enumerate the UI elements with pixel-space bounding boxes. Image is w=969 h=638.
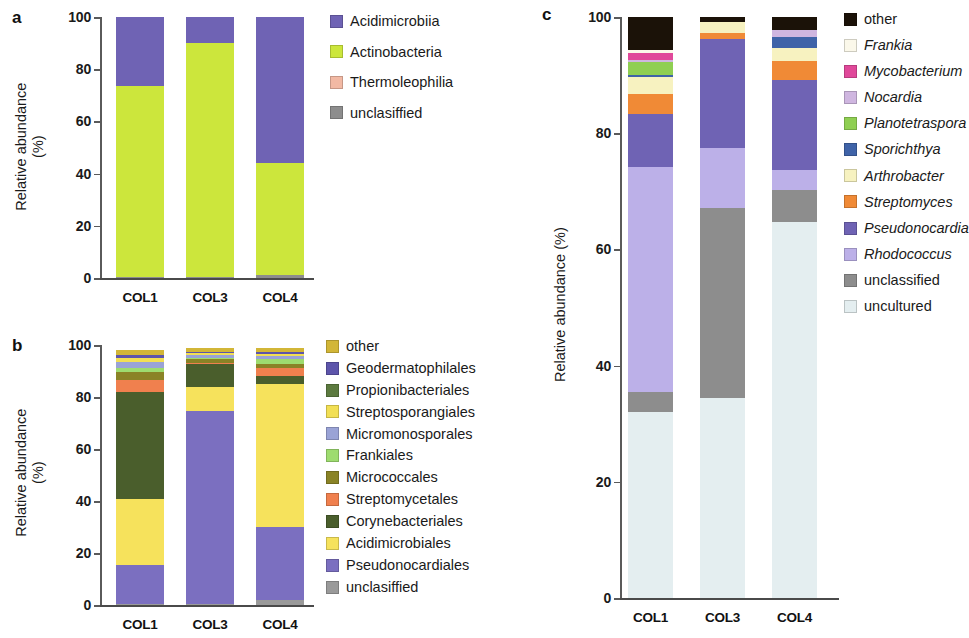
- legend-swatch-icon: [326, 537, 339, 550]
- stacked-bar[interactable]: [628, 17, 673, 598]
- bar-segment[interactable]: [700, 22, 745, 33]
- stacked-bar[interactable]: [116, 17, 164, 278]
- legend-label: Sporichthya: [864, 142, 941, 157]
- stacked-bar[interactable]: [186, 345, 234, 605]
- legend-item[interactable]: Frankiales: [326, 448, 476, 463]
- bar-segment[interactable]: [256, 600, 304, 605]
- bar-segment[interactable]: [772, 80, 817, 170]
- stacked-bar[interactable]: [256, 17, 304, 278]
- stacked-bar[interactable]: [256, 345, 304, 605]
- bar-segment[interactable]: [256, 368, 304, 376]
- bar-segment[interactable]: [256, 384, 304, 526]
- y-axis-line: [620, 17, 622, 598]
- bar-segment[interactable]: [628, 77, 673, 94]
- bar-segment[interactable]: [256, 275, 304, 278]
- legend-item[interactable]: Rhodococcus: [844, 247, 969, 262]
- bar-segment[interactable]: [116, 380, 164, 393]
- legend-item[interactable]: Streptomycetales: [326, 492, 476, 507]
- stacked-bar[interactable]: [700, 17, 745, 598]
- bar-segment[interactable]: [700, 208, 745, 398]
- legend-label: Actinobacteria: [350, 45, 442, 60]
- legend-item[interactable]: Planotetraspora: [844, 116, 969, 131]
- bar-segment[interactable]: [116, 372, 164, 380]
- x-axis-category-label: COL1: [633, 610, 668, 625]
- bar-segment[interactable]: [700, 39, 745, 149]
- legend-item[interactable]: Actinobacteria: [330, 45, 453, 60]
- legend-item[interactable]: Propionibacteriales: [326, 383, 476, 398]
- y-axis-tick: [94, 121, 100, 123]
- bar-segment[interactable]: [628, 392, 673, 412]
- bar-segment[interactable]: [772, 37, 817, 48]
- bar-segment[interactable]: [628, 94, 673, 114]
- legend-item[interactable]: Nocardia: [844, 90, 969, 105]
- y-axis-tick-label: 40: [76, 166, 91, 182]
- bar-segment[interactable]: [700, 148, 745, 208]
- legend-item[interactable]: Micrococcales: [326, 470, 476, 485]
- bar-segment[interactable]: [186, 387, 234, 412]
- bar-segment[interactable]: [256, 17, 304, 163]
- bar-segment[interactable]: [186, 43, 234, 277]
- stacked-bar[interactable]: [772, 17, 817, 598]
- bar-segment[interactable]: [772, 17, 817, 30]
- legend-item[interactable]: Sporichthya: [844, 142, 969, 157]
- legend-label: Pseudonocardiales: [346, 558, 469, 573]
- bar-segment[interactable]: [772, 61, 817, 81]
- legend-item[interactable]: Arthrobacter: [844, 169, 969, 184]
- bar-segment[interactable]: [772, 30, 817, 37]
- bar-segment[interactable]: [116, 17, 164, 86]
- legend-item[interactable]: Streptosporangiales: [326, 405, 476, 420]
- legend-item[interactable]: Pseudonocardia: [844, 221, 969, 236]
- bar-segment[interactable]: [256, 163, 304, 275]
- panel-a-y-axis-label: Relative abundance (%): [13, 72, 46, 222]
- legend-swatch-icon: [326, 515, 339, 528]
- bar-segment[interactable]: [628, 167, 673, 392]
- legend-item[interactable]: unclasiffied: [326, 580, 476, 595]
- bar-segment[interactable]: [186, 277, 234, 278]
- bar-segment[interactable]: [628, 17, 673, 50]
- bar-segment[interactable]: [256, 376, 304, 384]
- legend-label: Thermoleophilia: [350, 75, 453, 90]
- bar-segment[interactable]: [628, 412, 673, 598]
- bar-segment[interactable]: [186, 411, 234, 604]
- bar-segment[interactable]: [772, 190, 817, 222]
- bar-segment[interactable]: [186, 364, 234, 386]
- bar-segment[interactable]: [256, 527, 304, 601]
- legend-item[interactable]: Streptomyces: [844, 195, 969, 210]
- bar-segment[interactable]: [628, 62, 673, 74]
- bar-segment[interactable]: [116, 499, 164, 565]
- bar-segment[interactable]: [772, 222, 817, 598]
- legend-item[interactable]: Pseudonocardiales: [326, 558, 476, 573]
- legend-item[interactable]: Thermoleophilia: [330, 75, 453, 90]
- legend-item[interactable]: Acidimicrobiia: [330, 14, 453, 29]
- bar-segment[interactable]: [772, 170, 817, 190]
- stacked-bar[interactable]: [116, 345, 164, 605]
- legend-swatch-icon: [326, 405, 339, 418]
- legend-item[interactable]: other: [326, 339, 476, 354]
- legend-item[interactable]: uncultured: [844, 299, 969, 314]
- bar-segment[interactable]: [700, 398, 745, 598]
- bar-segment[interactable]: [116, 277, 164, 278]
- bar-segment[interactable]: [116, 392, 164, 499]
- legend-item[interactable]: Geodermatophilales: [326, 361, 476, 376]
- panel-a-y-axis-label-line1: Relative abundance: [13, 72, 30, 222]
- bar-segment[interactable]: [186, 17, 234, 43]
- bar-segment[interactable]: [116, 86, 164, 277]
- bar-segment[interactable]: [772, 48, 817, 60]
- legend-item[interactable]: unclassified: [844, 273, 969, 288]
- stacked-bar[interactable]: [186, 17, 234, 278]
- bar-segment[interactable]: [116, 565, 164, 603]
- bar-segment[interactable]: [116, 604, 164, 605]
- legend-item[interactable]: other: [844, 12, 969, 27]
- legend-item[interactable]: Acidimicrobiales: [326, 536, 476, 551]
- bar-segment[interactable]: [186, 604, 234, 605]
- legend-swatch-icon: [326, 340, 339, 353]
- legend-item[interactable]: Micromonosporales: [326, 427, 476, 442]
- legend-item[interactable]: Frankia: [844, 38, 969, 53]
- legend-item[interactable]: Corynebacteriales: [326, 514, 476, 529]
- legend-item[interactable]: unclasiffied: [330, 106, 453, 121]
- legend-item[interactable]: Mycobacterium: [844, 64, 969, 79]
- bar-segment[interactable]: [628, 53, 673, 60]
- legend-label: Nocardia: [864, 90, 922, 105]
- y-axis-tick: [614, 366, 620, 368]
- bar-segment[interactable]: [628, 114, 673, 167]
